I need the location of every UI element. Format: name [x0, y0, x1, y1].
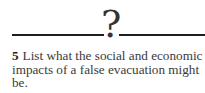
- question-mark-icon: ?: [101, 3, 121, 45]
- divider-rule-left: [12, 34, 104, 36]
- question-text: List what the social and economic impact…: [12, 48, 202, 90]
- question-item: 5List what the social and economic impac…: [12, 49, 205, 90]
- divider-rule-right: [119, 34, 205, 36]
